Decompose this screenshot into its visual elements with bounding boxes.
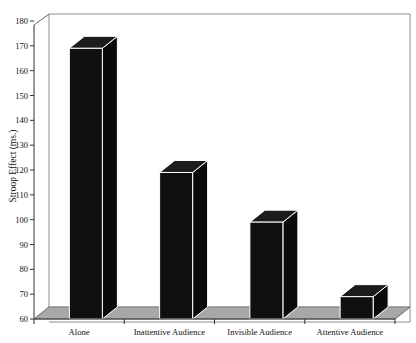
y-tick-label: 90 [20, 240, 29, 250]
x-category-label: Inattentive Audience [134, 327, 206, 337]
chart-container: 60708090100110120130140150160170180 Alon… [0, 0, 416, 343]
x-category-label: Invisible Audience [227, 327, 292, 337]
y-tick-label: 80 [20, 264, 29, 274]
y-tick-label: 70 [20, 289, 29, 299]
y-tick-label: 180 [15, 16, 28, 26]
bar-front-face [340, 297, 373, 319]
bar-chart-3d: 60708090100110120130140150160170180 Alon… [0, 0, 416, 343]
y-tick-label: 60 [20, 314, 29, 324]
x-category-label: Alone [69, 327, 90, 337]
y-tick-label: 140 [15, 115, 28, 125]
bar-side-face [102, 36, 117, 319]
bar [160, 160, 208, 319]
y-axis-title: Stroop Effect (ms.) [8, 130, 19, 203]
y-tick-label: 160 [15, 66, 28, 76]
bar-front-face [250, 222, 283, 319]
bar-front-face [69, 48, 102, 319]
bar-front-face [160, 172, 193, 319]
bar [250, 210, 298, 319]
y-tick-label: 100 [15, 215, 28, 225]
bar-side-face [283, 210, 298, 319]
x-category-label: Attentive Audience [317, 327, 384, 337]
y-tick-label: 150 [15, 91, 28, 101]
y-tick-label: 170 [15, 41, 28, 51]
bar-side-face [193, 160, 208, 319]
bar [69, 36, 117, 319]
